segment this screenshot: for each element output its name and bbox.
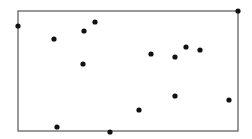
data-point <box>172 54 177 59</box>
data-point <box>81 28 86 33</box>
data-point <box>15 23 20 28</box>
plot-frame <box>18 11 238 131</box>
data-point <box>80 61 85 66</box>
scatter-plot <box>0 0 252 139</box>
data-point <box>172 93 177 98</box>
data-point <box>92 19 97 24</box>
data-point <box>51 36 56 41</box>
data-point <box>235 8 240 13</box>
data-point <box>54 124 59 129</box>
data-point <box>148 51 153 56</box>
data-point <box>183 44 188 49</box>
data-point <box>107 129 112 134</box>
data-point <box>197 47 202 52</box>
data-points <box>15 8 240 134</box>
data-point <box>136 107 141 112</box>
data-point <box>226 97 231 102</box>
